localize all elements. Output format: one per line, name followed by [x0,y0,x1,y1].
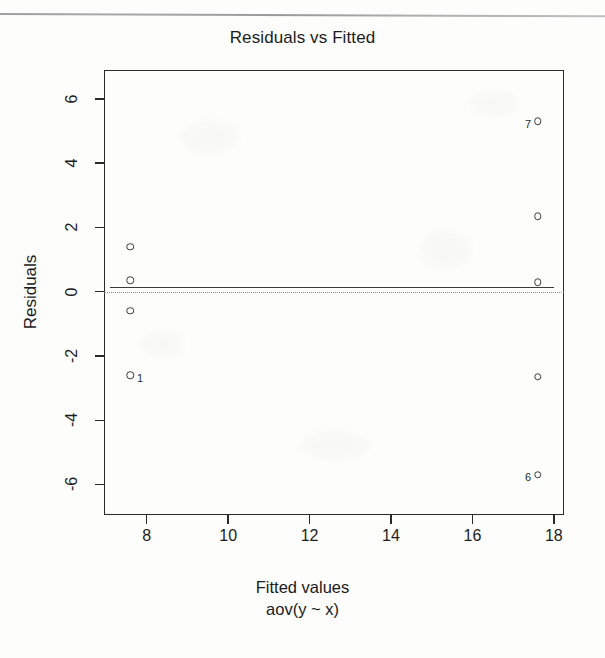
data-point-label: 7 [525,118,531,130]
x-axis-label: Fitted values [0,578,605,597]
y-axis-tick [95,355,104,356]
y-axis-tick [95,227,104,228]
y-axis-tick [95,98,104,99]
data-point-label: 6 [525,471,531,483]
data-point [127,277,135,285]
scatter-layer: 176 [104,70,564,515]
data-point [534,118,542,126]
x-axis-tick [309,515,310,524]
y-axis-tick [95,484,104,485]
x-axis-tick-label: 14 [382,527,400,545]
x-axis-tick [227,515,228,524]
plot-title: Residuals vs Fitted [0,28,605,48]
x-axis-tick-label: 16 [464,527,482,545]
x-axis-tick [553,515,554,524]
residuals-vs-fitted-plot: Residuals vs Fitted 810121416186420-2-4-… [0,0,605,658]
x-axis-tick [472,515,473,524]
y-axis-tick-label: -4 [63,413,81,427]
x-axis-tick [390,515,391,524]
data-point [127,371,135,379]
y-axis-tick-label: 2 [63,223,81,232]
y-axis-tick [95,162,104,163]
x-axis-tick-label: 10 [219,527,237,545]
y-axis-tick-label: 4 [63,159,81,168]
data-point [534,212,542,220]
y-axis-tick-label: -6 [63,477,81,491]
data-point [534,373,542,381]
data-point [127,307,135,315]
x-axis-tick-label: 18 [545,527,563,545]
y-axis-tick-label: -2 [63,349,81,363]
data-point [534,471,542,479]
x-axis-tick [146,515,147,524]
plot-subtitle: aov(y ~ x) [0,600,605,619]
data-point [534,278,542,286]
y-axis-tick [95,291,104,292]
x-axis-tick-label: 12 [301,527,319,545]
y-axis-tick [95,420,104,421]
data-point [127,243,135,251]
x-axis-tick-label: 8 [142,527,151,545]
y-axis-label: Residuals [21,255,41,330]
y-axis-tick-label: 0 [63,287,81,296]
data-point-label: 1 [137,372,143,384]
y-axis-tick-label: 6 [63,94,81,103]
